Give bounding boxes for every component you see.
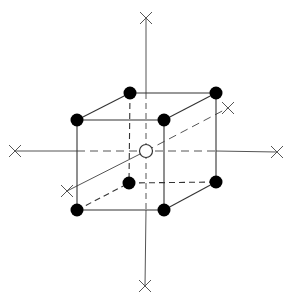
edge-bottom-right-depth [164, 182, 216, 210]
atom-body-center [140, 145, 153, 158]
atom-back-bottom-right [210, 176, 223, 189]
cross-icon-depth-back [222, 102, 234, 114]
atom-front-bottom-right [158, 204, 171, 217]
edge-back-bottom-hidden [129, 182, 216, 183]
atom-back-top-right [210, 87, 223, 100]
vertical-axis-bottom [145, 210, 146, 286]
atom-back-top-left [124, 87, 137, 100]
cross-icon-depth-front [61, 185, 73, 197]
edge-back-left-hidden [129, 93, 130, 183]
atom-front-top-right [158, 114, 171, 127]
diagram-svg [0, 0, 285, 302]
atom-front-bottom-left [71, 204, 84, 217]
edge-top-left-depth [77, 93, 130, 120]
edge-top-right-depth [164, 93, 216, 120]
bcc-unit-cell-diagram [0, 0, 285, 302]
horizontal-axis-right [216, 151, 277, 152]
atom-front-top-left [71, 114, 84, 127]
edge-bottom-left-depth-hidden [77, 183, 129, 210]
atom-back-bottom-left [123, 177, 136, 190]
